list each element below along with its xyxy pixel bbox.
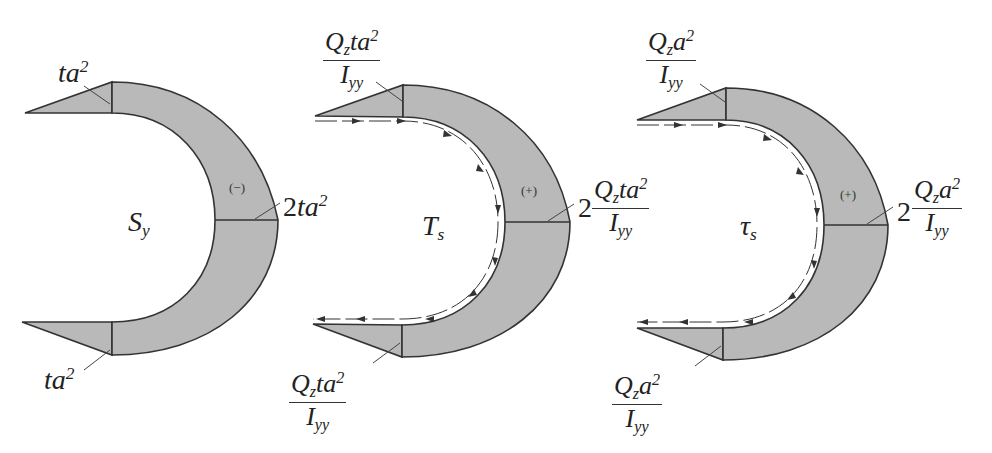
center-label-first-moment: Sy — [128, 208, 150, 240]
sign-indicator: (+) — [521, 183, 537, 199]
leader-bottom — [84, 350, 110, 370]
top-flange-label: ta2 — [58, 58, 88, 87]
mid-web-coefficient: 2 — [897, 198, 911, 226]
bottom-flange-distribution — [22, 322, 112, 355]
sign-indicator: (+) — [840, 187, 856, 203]
panel-first-moment-shape — [22, 82, 280, 370]
bottom-flange-label: ta2 — [44, 365, 74, 394]
top-flange-label: Qza2 Iyy — [646, 28, 696, 91]
shear-flow-direction-path — [313, 121, 498, 319]
center-label-shear-flow: Ts — [422, 212, 444, 244]
shear-flow-direction-path — [637, 125, 817, 322]
top-flange-label: Qzta2 Iyy — [323, 28, 380, 91]
mid-web-label: Qza2 Iyy — [912, 176, 962, 239]
bottom-flange-label: Qzta2 Iyy — [289, 370, 346, 433]
sign-indicator: (−) — [229, 180, 245, 196]
bottom-flange-label: Qza2 Iyy — [612, 372, 662, 435]
shear-flow-figure: Sy (−) ta2 ta2 2ta2 Ts (+) Qzta2 Iyy Qzt… — [0, 0, 992, 453]
mid-web-label: 2ta2 — [283, 192, 327, 221]
bottom-flange-distribution — [313, 324, 402, 357]
center-label-shear-stress: τs — [740, 212, 757, 244]
panel-shear-stress-shape — [637, 84, 893, 366]
mid-web-label: Qzta2 Iyy — [592, 176, 649, 239]
bottom-flange-distribution — [637, 328, 723, 360]
mid-web-coefficient: 2 — [578, 194, 592, 222]
